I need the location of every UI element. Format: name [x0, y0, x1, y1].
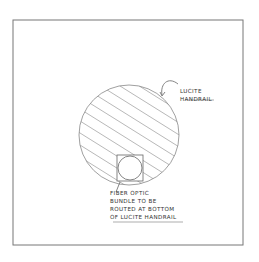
- fiber-bundle-circle: [118, 156, 142, 180]
- diagram-canvas: LUCITE HANDRAIL FIBER OPTIC BUNDLE TO BE…: [0, 0, 259, 262]
- cross-section-drawing: [0, 0, 259, 262]
- handrail-label-line-1: LUCITE: [180, 88, 202, 95]
- handrail-label-line-2: HANDRAIL: [180, 96, 212, 103]
- fiber-label-line-4: OF LUCITE HANDRAIL: [110, 214, 177, 221]
- fiber-label-line-2: BUNDLE TO BE: [110, 198, 157, 205]
- fiber-label-line-3: ROUTED AT BOTTOM: [110, 206, 175, 213]
- fiber-label-line-1: FIBER OPTIC: [110, 190, 149, 197]
